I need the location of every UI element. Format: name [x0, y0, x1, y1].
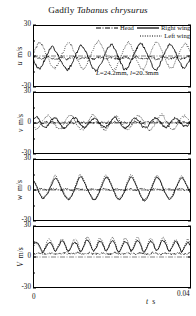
gadfly-velocity-figure: Gadfly Tabanus chrysurus 300-30u m/s300-…: [0, 0, 196, 316]
figure-title: Gadfly Tabanus chrysurus: [0, 5, 196, 15]
panel-V-axis-unit: m/s: [16, 247, 25, 262]
xaxis-label-symbol: t: [146, 297, 148, 306]
panel-v-ytick-mark: [188, 92, 191, 93]
panel-w-axis-label: w m/s: [16, 180, 25, 200]
panel-v-ytick-minor: [33, 107, 35, 108]
panel-u-ytick-mark: [33, 25, 36, 26]
legend-entry-right-wing: Right wing: [137, 24, 191, 32]
panel-v-ytick-mark: [33, 123, 36, 124]
trace-head: [33, 121, 191, 124]
panel-u-ytick-mark: [188, 56, 191, 57]
panel-v: 300-30v m/s: [33, 92, 191, 154]
panel-u-ytick-label: 0: [27, 52, 31, 59]
panel-V-ytick-mark: [188, 257, 191, 258]
panel-u-ytick-mark: [33, 87, 36, 88]
panel-V-ytick-mark: [33, 257, 36, 258]
size-annotation: L=24.2mm, l=20.3mm: [96, 69, 159, 76]
trace-layer: [33, 226, 191, 288]
legend-label-right-wing: Right wing: [161, 24, 191, 32]
panel-v-axis-label: v m/s: [16, 114, 25, 132]
legend-swatch-solid-icon: [137, 25, 159, 31]
panel-u-ytick-label: 30: [24, 21, 31, 28]
panel-w-axis-symbol: w: [16, 195, 25, 200]
trace-right-wing: [33, 240, 191, 253]
legend-label-left-wing: Left wing: [164, 32, 190, 40]
title-species: Tabanus chrysurus: [77, 5, 148, 15]
panel-u-ytick-mark: [33, 56, 36, 57]
legend-swatch-dotted-icon: [140, 33, 162, 39]
panel-V-axis-label: V m/s: [16, 247, 25, 266]
panel-v-ytick-mark: [188, 123, 191, 124]
panel-w-axis-unit: m/s: [16, 180, 25, 195]
xaxis-end-tick: [190, 284, 191, 288]
panel-u-axis-symbol: u: [16, 61, 25, 65]
panel-w-ytick-mark: [188, 159, 191, 160]
panel-w-ytick-minor: [33, 205, 35, 206]
panel-w-ytick-label: 0: [27, 186, 31, 193]
annotation-body-length-value: =24.2mm: [100, 69, 127, 76]
panel-v-axis-unit: m/s: [16, 114, 25, 129]
panel-w-ytick-minor: [33, 174, 35, 175]
panel-V-ytick-mark: [188, 226, 191, 227]
panel-w-ytick-mark: [33, 190, 36, 191]
annotation-wing-length-value: =20.3mm: [132, 69, 159, 76]
trace-right-wing: [33, 43, 191, 72]
panel-u-ytick-mark: [188, 87, 191, 88]
xaxis-tick-label-min: 0: [32, 294, 36, 301]
trace-left-wing: [33, 236, 191, 253]
trace-head: [33, 188, 191, 191]
trace-head: [33, 252, 191, 255]
panel-V-ytick-minor: [33, 272, 35, 273]
trace-head: [33, 56, 191, 61]
legend-entry-left-wing: Left wing: [140, 32, 190, 40]
panel-v-ytick-mark: [33, 154, 36, 155]
trace-layer: [33, 159, 191, 221]
title-prefix: Gadfly: [48, 5, 77, 15]
panel-V-ytick-label: 0: [27, 253, 31, 260]
legend-row-top: Head Right wing: [96, 24, 190, 32]
legend-row-bottom: Left wing: [96, 32, 190, 40]
panel-V-ytick-label: -30: [21, 284, 31, 291]
panel-V-axis-symbol: V: [16, 262, 25, 267]
legend-entry-head: Head: [96, 24, 134, 32]
xaxis-label-unit: s: [152, 297, 155, 306]
panel-v-ytick-label: 30: [24, 88, 31, 95]
panel-w-ytick-mark: [188, 221, 191, 222]
panel-w: 300-30w m/s: [33, 159, 191, 221]
xaxis-tick-label-max: 0.04: [177, 291, 190, 298]
panel-v-axis-symbol: v: [16, 129, 25, 132]
panel-V-ytick-label: 30: [24, 222, 31, 229]
xaxis-end-tick: [33, 284, 34, 288]
panel-V-ytick-mark: [33, 226, 36, 227]
panel-w-ytick-mark: [33, 221, 36, 222]
legend-swatch-dash-dot-icon: [96, 25, 118, 31]
panel-u-ytick-minor: [33, 71, 35, 72]
legend: Head Right wing Left wing: [96, 24, 190, 40]
xaxis-label: ts: [146, 297, 155, 306]
trace-layer: [33, 92, 191, 154]
panel-w-ytick-mark: [33, 159, 36, 160]
panel-V: 300-30V m/s: [33, 226, 191, 288]
panel-v-ytick-minor: [33, 138, 35, 139]
panel-u-axis-label: u m/s: [16, 47, 25, 66]
legend-label-head: Head: [120, 24, 134, 32]
panel-v-ytick-mark: [33, 92, 36, 93]
panel-v-ytick-mark: [188, 154, 191, 155]
panel-u-ytick-minor: [33, 40, 35, 41]
panel-w-ytick-mark: [188, 190, 191, 191]
panel-V-ytick-minor: [33, 241, 35, 242]
panel-w-ytick-label: 30: [24, 155, 31, 162]
panel-u-axis-unit: m/s: [16, 47, 25, 62]
panel-v-ytick-label: 0: [27, 119, 31, 126]
